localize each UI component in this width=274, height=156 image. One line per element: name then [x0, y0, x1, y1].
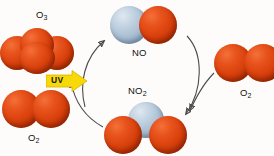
- photochemical-cycle-diagram: O3 O2 NO NO2 O2: [0, 0, 274, 156]
- arrow-no-to-no2: [186, 36, 199, 114]
- uv-label: UV: [51, 76, 63, 85]
- cycle-arrows: [0, 0, 274, 156]
- arrow-oxygen-to-no2: [190, 73, 214, 110]
